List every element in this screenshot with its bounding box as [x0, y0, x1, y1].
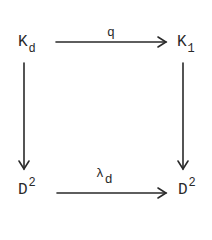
node-base: K: [18, 33, 28, 51]
node-subscript: 1: [188, 42, 195, 56]
node-top-left: Kd: [18, 34, 36, 51]
label-base: λ: [96, 166, 104, 181]
node-bottom-right: D2: [178, 182, 196, 199]
arrow-bottom-label: λd: [96, 167, 113, 180]
node-subscript: d: [29, 42, 36, 56]
node-bottom-left: D2: [18, 182, 36, 199]
label-subscript: d: [105, 172, 113, 187]
node-superscript: 2: [189, 176, 196, 190]
node-superscript: 2: [29, 176, 36, 190]
node-base: D: [178, 181, 188, 199]
node-base: K: [177, 33, 187, 51]
arrow-top-label: q: [107, 26, 115, 39]
node-base: D: [18, 181, 28, 199]
node-top-right: K1: [177, 34, 195, 51]
